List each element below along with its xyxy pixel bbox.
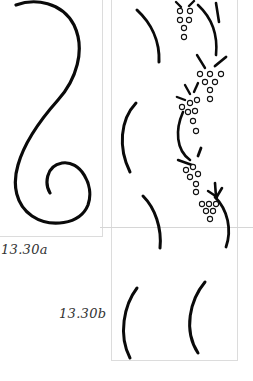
grape-cluster-1 [177, 8, 192, 39]
left-arc-column [122, 10, 160, 358]
ornament-drawing [0, 0, 253, 381]
grape-cluster-5 [199, 201, 218, 221]
panel-a-caption: 13.30a [1, 242, 48, 257]
grape-cluster-4 [183, 164, 200, 194]
vine-column [176, 1, 229, 353]
panel-b-caption: 13.30b [59, 306, 106, 321]
grape-cluster-2 [197, 71, 223, 101]
s-scroll-flourish [15, 2, 89, 223]
